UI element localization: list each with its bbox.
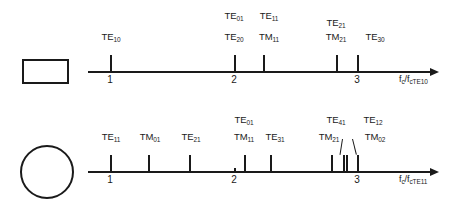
rect-mode-te21-sub: 21: [339, 22, 346, 29]
circ-axis-line: [88, 171, 432, 173]
figure-canvas: fc/fcTE10 1 2 3 TE10 TE01 TE20 TE11 TM11…: [0, 0, 451, 207]
circ-tick-te41: [343, 155, 345, 172]
rect-mode-te10: TE10: [102, 31, 121, 42]
circ-mode-tm01-sub: 01: [153, 136, 160, 143]
circ-mode-te01-sub: 01: [247, 119, 254, 126]
circ-tick-3: [357, 155, 359, 172]
circ-mode-tm11-sub: 11: [248, 136, 254, 143]
circ-tick-1: [110, 155, 112, 172]
circ-mode-te31-sub: 31: [278, 136, 285, 143]
rect-axis-f-sub: c: [401, 78, 404, 85]
rect-tick-te21-tm21: [336, 55, 338, 72]
rect-mode-tm21-sub: 21: [339, 36, 346, 43]
circ-axis-f-sub: c: [401, 178, 404, 185]
circ-mode-te11: TE11: [102, 131, 120, 142]
rect-tick-te11-tm11: [263, 55, 265, 72]
circ-mode-tm11-base: TM: [234, 131, 248, 142]
circ-mode-tm01: TM01: [140, 131, 160, 142]
rect-axis-caption: fc/fcTE10: [399, 74, 428, 84]
circ-mode-tm01-base: TM: [140, 131, 154, 142]
circ-tick-te21: [189, 155, 191, 172]
circ-mode-tm02-base: TM: [365, 131, 379, 142]
circ-tick-number-3: 3: [354, 174, 360, 185]
rect-mode-te11-base: TE: [260, 10, 272, 21]
rect-tick-number-1: 1: [107, 74, 113, 85]
rect-axis-arrowhead: [430, 68, 439, 76]
circ-mode-te21-sub: 21: [194, 136, 201, 143]
rect-mode-tm21: TM21: [326, 31, 346, 42]
rect-mode-te30-sub: 30: [378, 36, 385, 43]
circ-mode-tm11: TM11: [234, 131, 254, 142]
rect-mode-te20: TE20: [225, 31, 244, 42]
circ-tick-te12: [346, 155, 348, 172]
rect-mode-te20-base: TE: [225, 31, 237, 42]
circ-tick-tm21: [331, 155, 333, 172]
circ-mode-te11-sub: 11: [114, 136, 120, 143]
rect-tick-1: [110, 55, 112, 72]
rect-mode-te20-sub: 20: [237, 36, 244, 43]
circ-leader-te12: [352, 139, 357, 155]
circ-tick-tm01: [148, 155, 150, 172]
circ-mode-tm02-sub: 02: [378, 136, 385, 143]
rect-mode-te01-sub: 01: [237, 15, 244, 22]
circ-mode-te01: TE01: [235, 114, 254, 125]
circ-mode-te12: TE12: [364, 114, 383, 125]
circ-tick-te31: [270, 155, 272, 172]
circ-axis-arrowhead: [430, 168, 439, 176]
circ-mode-te41-base: TE: [327, 114, 339, 125]
circ-mode-te21: TE21: [182, 131, 201, 142]
circ-mode-te12-sub: 12: [376, 119, 383, 126]
circ-mode-te31-base: TE: [266, 131, 278, 142]
rect-mode-tm11: TM11: [259, 31, 279, 42]
circ-mode-te01-base: TE: [235, 114, 247, 125]
circ-leader-te41: [340, 139, 343, 155]
rect-mode-te01: TE01: [225, 10, 244, 21]
rect-mode-te11-sub: 11: [272, 15, 278, 22]
circ-tick-te01-tm11: [244, 155, 246, 172]
rectangular-waveguide-cross-section: [22, 59, 69, 84]
circ-axis-caption: fc/fcTE11: [399, 174, 427, 184]
rect-mode-te10-sub: 10: [114, 36, 121, 43]
rect-mode-te01-base: TE: [225, 10, 237, 21]
rect-mode-tm11-sub: 11: [273, 36, 279, 43]
rect-mode-tm21-base: TM: [326, 31, 340, 42]
circ-mode-te41-sub: 41: [339, 119, 346, 126]
circ-mode-te31: TE31: [266, 131, 285, 142]
circ-mode-te11-base: TE: [102, 131, 114, 142]
circ-mode-tm21-base: TM: [319, 131, 333, 142]
rect-mode-tm11-base: TM: [259, 31, 273, 42]
rect-mode-te30-base: TE: [366, 31, 378, 42]
rect-tick-3: [357, 55, 359, 72]
circ-axis-ref-sub: cTE11: [409, 178, 427, 185]
rect-mode-te21-base: TE: [327, 17, 339, 28]
circ-mode-te21-base: TE: [182, 131, 194, 142]
circ-tick-number-1: 1: [107, 174, 113, 185]
circular-waveguide-cross-section: [20, 145, 74, 199]
circ-mode-te41: TE41: [327, 114, 346, 125]
rect-tick-number-2: 2: [231, 74, 237, 85]
rect-tick-2: [234, 55, 236, 72]
rect-mode-te10-base: TE: [102, 31, 114, 42]
circ-tick-2: [234, 168, 236, 172]
circ-mode-tm21: TM21: [319, 131, 339, 142]
rect-mode-te21: TE21: [327, 17, 346, 28]
circ-mode-tm02: TM02: [365, 131, 385, 142]
rect-mode-te11: TE11: [260, 10, 278, 21]
circ-mode-tm21-sub: 21: [332, 136, 339, 143]
rect-axis-ref-sub: cTE10: [409, 78, 427, 85]
rect-axis-line: [88, 71, 432, 73]
rect-mode-te30: TE30: [366, 31, 385, 42]
circ-mode-te12-base: TE: [364, 114, 376, 125]
rect-tick-number-3: 3: [354, 74, 360, 85]
circ-tick-number-2: 2: [231, 174, 237, 185]
